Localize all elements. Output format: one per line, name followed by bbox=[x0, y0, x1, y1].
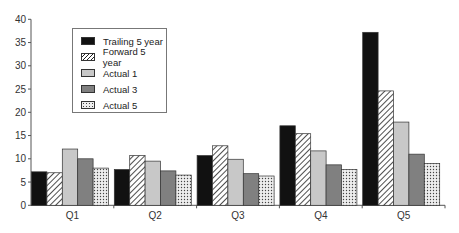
bar-actual-1-q1 bbox=[62, 149, 77, 205]
bar-actual-5-q5 bbox=[424, 163, 439, 205]
legend-item: Forward 5 year bbox=[81, 49, 166, 65]
bar-trailing-5-year-q5 bbox=[363, 32, 378, 205]
y-tick-label: 15 bbox=[15, 130, 27, 141]
bar-actual-1-q5 bbox=[394, 122, 409, 205]
legend-label: Actual 3 bbox=[103, 84, 137, 95]
y-tick-label: 10 bbox=[15, 153, 27, 164]
bar-actual-3-q1 bbox=[78, 159, 93, 206]
bar-trailing-5-year-q2 bbox=[114, 169, 129, 205]
legend-swatch-icon bbox=[81, 85, 95, 93]
legend-label: Actual 5 bbox=[103, 100, 137, 111]
bar-actual-5-q1 bbox=[93, 168, 108, 205]
legend-swatch-icon bbox=[81, 37, 95, 45]
x-category-label: Q1 bbox=[66, 210, 80, 221]
legend-swatch-icon bbox=[81, 69, 95, 77]
bar-trailing-5-year-q3 bbox=[197, 156, 212, 206]
x-category-label: Q4 bbox=[314, 210, 328, 221]
x-category-label: Q2 bbox=[149, 210, 163, 221]
bar-actual-5-q2 bbox=[176, 175, 191, 205]
bar-actual-3-q2 bbox=[161, 171, 176, 205]
legend-swatch-icon bbox=[81, 53, 95, 61]
y-tick-label: 25 bbox=[15, 84, 27, 95]
bar-actual-3-q3 bbox=[243, 174, 258, 206]
bar-actual-3-q4 bbox=[326, 165, 341, 205]
y-tick-label: 20 bbox=[15, 107, 27, 118]
x-category-label: Q3 bbox=[231, 210, 245, 221]
y-tick-label: 35 bbox=[15, 37, 27, 48]
y-tick-label: 30 bbox=[15, 60, 27, 71]
bar-forward-5-year-q1 bbox=[47, 173, 62, 206]
bar-forward-5-year-q2 bbox=[130, 156, 145, 206]
bar-trailing-5-year-q4 bbox=[280, 126, 295, 206]
y-tick-label: 0 bbox=[20, 200, 26, 211]
bar-actual-1-q2 bbox=[145, 161, 160, 205]
y-tick-label: 5 bbox=[20, 177, 26, 188]
bar-actual-5-q3 bbox=[259, 176, 274, 205]
legend-item: Actual 3 bbox=[81, 81, 166, 97]
bar-chart: 0510152025303540Q1Q2Q3Q4Q5 bbox=[0, 0, 459, 233]
bar-forward-5-year-q4 bbox=[295, 134, 310, 206]
bar-forward-5-year-q5 bbox=[378, 91, 393, 205]
legend-label: Forward 5 year bbox=[103, 46, 166, 68]
bar-trailing-5-year-q1 bbox=[32, 172, 47, 205]
bar-forward-5-year-q3 bbox=[213, 146, 228, 206]
legend-label: Actual 1 bbox=[103, 68, 137, 79]
legend-swatch-icon bbox=[81, 101, 95, 109]
x-category-label: Q5 bbox=[397, 210, 411, 221]
bar-actual-1-q4 bbox=[311, 151, 326, 205]
legend-label: Trailing 5 year bbox=[103, 36, 163, 47]
y-tick-label: 40 bbox=[15, 14, 27, 25]
legend: Trailing 5 yearForward 5 yearActual 1Act… bbox=[72, 28, 167, 113]
bar-actual-5-q4 bbox=[342, 169, 357, 205]
bar-actual-1-q3 bbox=[228, 159, 243, 205]
legend-item: Actual 5 bbox=[81, 97, 166, 113]
bar-actual-3-q5 bbox=[409, 154, 424, 205]
